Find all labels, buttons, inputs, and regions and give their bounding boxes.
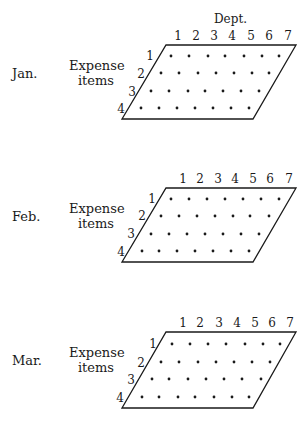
item-ticks: 1234 [117,49,154,116]
svg-text:1: 1 [174,29,182,43]
svg-text:3: 3 [128,85,136,99]
svg-text:4: 4 [231,172,239,186]
grid-parallelogram: 1234567 1234 [0,287,302,425]
svg-text:4: 4 [116,391,124,405]
svg-text:2: 2 [138,209,146,223]
data-dots [141,198,281,253]
svg-text:3: 3 [127,373,135,387]
svg-text:2: 2 [196,172,204,186]
svg-text:3: 3 [214,172,222,186]
svg-text:5: 5 [247,29,255,43]
svg-text:4: 4 [117,102,125,116]
svg-text:3: 3 [215,316,223,330]
svg-text:1: 1 [146,49,154,63]
svg-text:3: 3 [127,227,135,241]
svg-text:2: 2 [137,356,145,370]
svg-text:4: 4 [233,316,241,330]
data-dots [140,55,281,110]
dept-ticks: 1234567 [179,172,293,186]
svg-text:2: 2 [196,316,204,330]
grid-parallelogram: 1234567 1234 [0,143,302,283]
svg-text:3: 3 [210,29,218,43]
svg-text:1: 1 [179,316,187,330]
svg-text:4: 4 [228,29,236,43]
dept-ticks: 1234567 [174,29,292,43]
svg-text:1: 1 [149,337,157,351]
svg-text:7: 7 [284,29,292,43]
svg-text:6: 6 [265,29,273,43]
svg-text:6: 6 [268,316,276,330]
grid-parallelogram: 1234567 1234 [0,0,302,140]
panel-jan: Jan. Expense items 1234567 1234 [0,0,302,140]
svg-text:7: 7 [286,316,294,330]
panel-feb: Feb. Expense items 1234567 1234 [0,143,302,283]
svg-text:1: 1 [179,172,187,186]
item-ticks: 1234 [116,337,157,405]
svg-text:2: 2 [192,29,200,43]
svg-text:5: 5 [251,316,259,330]
svg-text:5: 5 [249,172,257,186]
dept-ticks: 1234567 [179,316,294,330]
svg-text:2: 2 [137,67,145,81]
svg-text:6: 6 [266,172,274,186]
svg-text:7: 7 [285,172,293,186]
panel-mar: Mar. Expense items 1234567 1234 [0,287,302,425]
svg-text:1: 1 [148,192,156,206]
item-ticks: 1234 [117,192,156,259]
data-dots [141,343,282,399]
svg-text:4: 4 [117,245,125,259]
